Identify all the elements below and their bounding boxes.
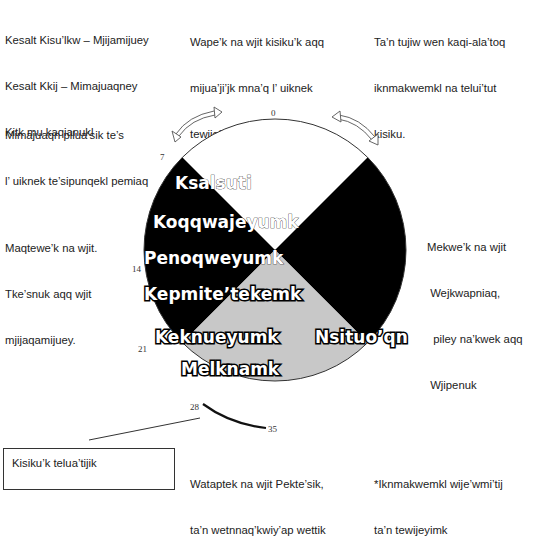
tick-35: 35 [268,424,278,434]
label-nsituoqn: Nsituo’qn [315,327,408,347]
label-penoqweyumk: Penoqweyumk [144,248,284,268]
tick-21: 21 [138,344,147,354]
label-kepmitetekemk: Kepmite’tekemk [144,284,302,304]
annotation-line: Wataptek na wjit Pekte’sik, [190,477,326,492]
tick-7: 7 [160,152,165,162]
leader-line [89,418,200,440]
annotation-line: ta’n wetnnaq’kwiy’ap wettik [190,523,326,538]
annotation-line: *Iknmakwemkl wije’wmi’tij [374,477,503,492]
definition-box: Kisiku’k telua’tijik [3,448,175,490]
tick-28: 28 [190,402,200,412]
label-ksalsuti: Ksalsuti [175,173,252,193]
annotation-line: ta’n tewijeyimk [374,523,503,538]
arc-28-35 [203,404,266,428]
label-koqqwajeyumk: Koqqwajeyumk [153,212,299,232]
tick-0: 0 [271,108,276,118]
label-melknamk: Melknamk [181,359,280,379]
tick-14: 14 [132,264,142,274]
label-keknueyumk: Keknueyumk [155,327,279,347]
definition-box-label: Kisiku’k telua’tijik [12,457,97,469]
